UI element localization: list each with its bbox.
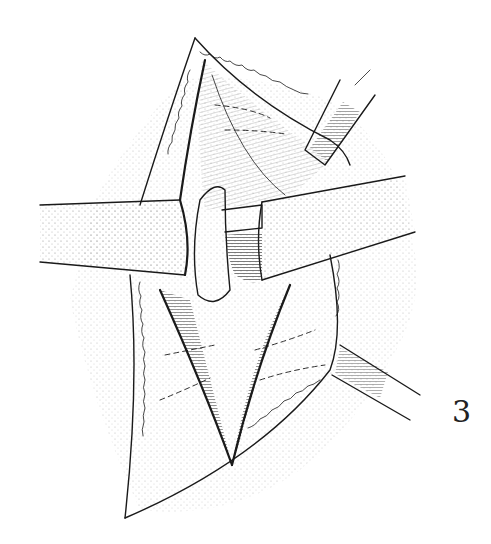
surgical-illustration (0, 0, 491, 544)
left-retractor (40, 200, 188, 275)
figure-number: 3 (452, 394, 471, 429)
